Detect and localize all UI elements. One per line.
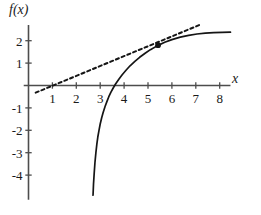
function-graph-figure: 1234567821-1-2-3-4 f(x) x <box>0 0 261 215</box>
y-tick-label: 2 <box>0 34 23 47</box>
y-tick-label: -1 <box>0 101 23 114</box>
annotation-group <box>155 42 161 48</box>
x-tick-label: 2 <box>73 92 80 105</box>
y-tick-label: 1 <box>0 57 23 70</box>
y-tick-label: -2 <box>0 124 23 137</box>
function-curve <box>93 32 230 195</box>
axes-group <box>24 25 231 200</box>
x-tick-label: 5 <box>145 92 152 105</box>
x-tick-label: 3 <box>97 92 104 105</box>
y-axis-label: f(x) <box>9 3 28 17</box>
y-tick-label: -4 <box>0 169 23 182</box>
x-tick-label: 8 <box>216 92 223 105</box>
point-of-tangency-marker <box>155 42 161 48</box>
x-tick-label: 1 <box>49 92 56 105</box>
x-tick-label: 4 <box>121 92 128 105</box>
x-tick-label: 7 <box>193 92 200 105</box>
x-axis-label: x <box>232 72 238 86</box>
data-series-group <box>36 25 231 195</box>
plot-canvas <box>0 0 261 215</box>
x-tick-label: 6 <box>169 92 176 105</box>
y-tick-label: -3 <box>0 146 23 159</box>
